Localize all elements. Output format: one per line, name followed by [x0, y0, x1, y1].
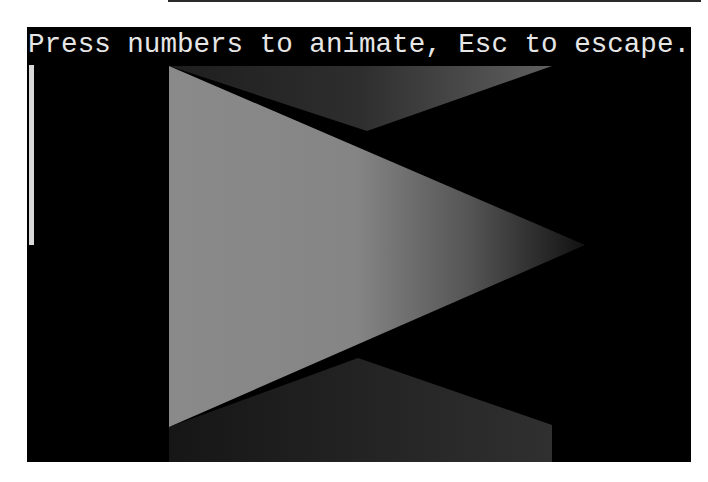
prompt-text: Press numbers to animate, Esc to escape.	[28, 29, 691, 61]
window-top-edge	[168, 0, 701, 2]
terminal-screen[interactable]: Press numbers to animate, Esc to escape.	[27, 27, 691, 462]
rendered-scene	[27, 27, 691, 462]
text-cursor	[29, 65, 34, 245]
